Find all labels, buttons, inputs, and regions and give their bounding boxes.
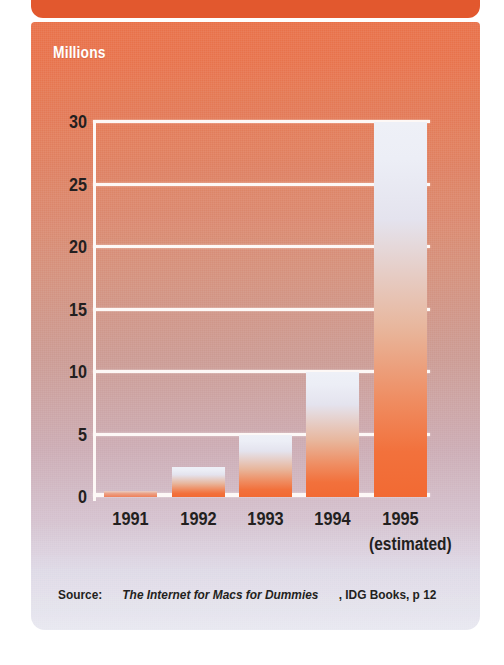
x-axis-tick-labels: 19911992199319941995(estimated) xyxy=(93,507,473,577)
bar-1991 xyxy=(104,491,157,497)
source-prefix: Source: xyxy=(58,587,102,602)
source-credit: Source: The Internet for Macs for Dummie… xyxy=(55,587,443,602)
bar-1992 xyxy=(172,467,225,497)
x-tick-label-1995: 1995(estimated) xyxy=(364,507,437,555)
plot-area xyxy=(93,122,430,497)
y-tick-label: 20 xyxy=(48,237,87,256)
source-publisher: , IDG Books, p 12 xyxy=(338,587,436,602)
y-tick-label: 10 xyxy=(48,362,87,381)
y-axis-tick-labels: 302520151050 xyxy=(37,122,87,497)
x-tick-year: 1991 xyxy=(99,507,162,531)
x-tick-year: 1995 xyxy=(369,507,432,531)
y-tick-label: 30 xyxy=(48,112,87,131)
y-tick-label: 15 xyxy=(48,300,87,319)
source-title: The Internet for Macs for Dummies xyxy=(122,587,318,602)
y-axis-line xyxy=(93,122,96,501)
x-tick-year: 1992 xyxy=(167,507,230,531)
bar-1995 xyxy=(374,122,427,497)
x-tick-label-1994: 1994 xyxy=(296,507,369,531)
header-band xyxy=(31,0,480,18)
x-tick-label-1993: 1993 xyxy=(229,507,302,531)
x-tick-label-1992: 1992 xyxy=(162,507,235,531)
y-tick-label: 25 xyxy=(48,175,87,194)
chart-figure: Millions 302520151050 199119921993199419… xyxy=(0,0,504,665)
x-tick-label-1991: 1991 xyxy=(94,507,167,531)
x-tick-year: 1993 xyxy=(234,507,297,531)
x-tick-year: 1994 xyxy=(302,507,365,531)
y-tick-label: 5 xyxy=(48,425,87,444)
bar-1994 xyxy=(306,372,359,497)
x-tick-note: (estimated) xyxy=(369,533,432,556)
y-tick-label: 0 xyxy=(48,487,87,506)
chart-panel: Millions 302520151050 199119921993199419… xyxy=(31,22,480,630)
bar-1993 xyxy=(239,435,292,498)
y-axis-unit-label: Millions xyxy=(53,44,106,62)
